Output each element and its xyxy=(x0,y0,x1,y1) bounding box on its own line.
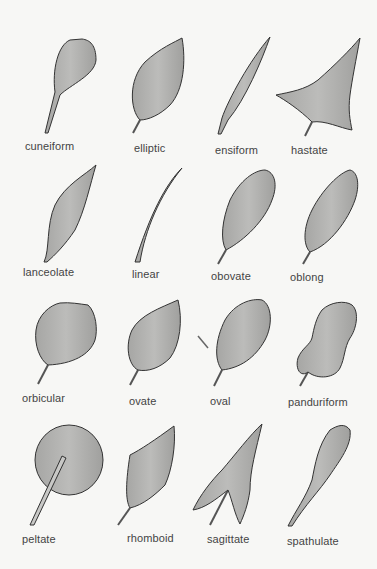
leaf-ovate-icon xyxy=(128,300,180,385)
leaf-ensiform-icon xyxy=(218,37,270,134)
leaf-obovate-icon xyxy=(218,170,275,264)
leaf-orbicular-icon xyxy=(36,303,97,384)
leaf-oval-icon xyxy=(198,300,270,386)
leaf-spathulate-icon xyxy=(288,425,350,526)
leaf-rhomboid-icon xyxy=(118,426,175,525)
label-sagittate: sagittate xyxy=(207,533,249,545)
leaf-elliptic-icon xyxy=(132,38,183,133)
leaf-panduriform-icon xyxy=(297,302,356,386)
label-cuneiform: cuneiform xyxy=(25,140,74,152)
label-elliptic: elliptic xyxy=(134,142,165,154)
label-linear: linear xyxy=(132,268,160,280)
label-obovate: obovate xyxy=(211,270,251,282)
label-panduriform: panduriform xyxy=(288,396,348,408)
label-hastate: hastate xyxy=(291,144,328,156)
label-orbicular: orbicular xyxy=(22,392,65,404)
label-oblong: oblong xyxy=(290,271,324,283)
leaf-peltate-icon xyxy=(30,425,103,525)
label-ensiform: ensiform xyxy=(215,144,258,156)
label-rhomboid: rhomboid xyxy=(127,532,174,544)
leaf-shapes-diagram xyxy=(0,0,377,569)
leaf-sagittate-icon xyxy=(193,424,262,525)
label-spathulate: spathulate xyxy=(287,535,339,547)
leaf-lanceolate-icon xyxy=(44,165,96,262)
leaf-hastate-icon xyxy=(276,38,360,136)
leaf-oblong-icon xyxy=(303,170,358,264)
leaf-cuneiform-icon xyxy=(45,39,96,133)
label-lanceolate: lanceolate xyxy=(23,266,74,278)
label-oval: oval xyxy=(210,395,231,407)
label-peltate: peltate xyxy=(22,533,56,545)
label-ovate: ovate xyxy=(129,395,156,407)
leaf-linear-icon xyxy=(135,168,182,262)
